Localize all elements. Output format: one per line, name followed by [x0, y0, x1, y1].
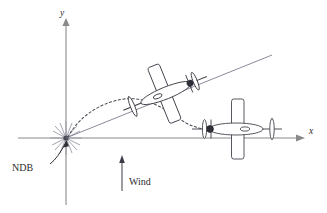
y-axis-label: y	[59, 8, 65, 18]
x-axis-arrowhead	[296, 134, 305, 141]
x-axis-label: x	[308, 126, 314, 136]
wind-label: Wind	[129, 176, 151, 187]
curved-flight-track	[68, 99, 211, 137]
axis-group	[18, 18, 305, 205]
diagram-canvas: x y NDB Wind	[0, 0, 327, 213]
y-axis-arrowhead	[62, 18, 69, 26]
figure-root: x y NDB Wind	[0, 0, 327, 213]
ndb-label: NDB	[12, 162, 33, 173]
wind-arrow	[119, 155, 125, 191]
aircraft-level	[192, 99, 282, 159]
